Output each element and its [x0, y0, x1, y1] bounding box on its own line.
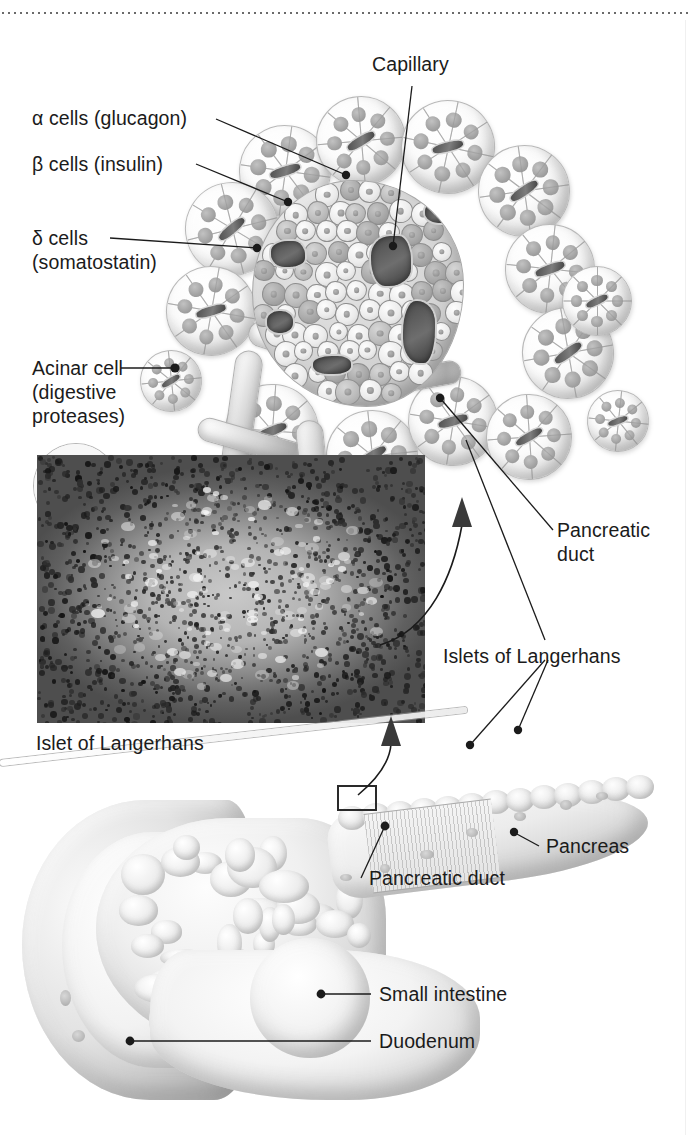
islet-cell	[389, 199, 413, 223]
islet-cell	[336, 261, 356, 281]
islet-capillary	[271, 241, 305, 267]
label-acinar-cell: Acinar cell (digestive proteases)	[32, 356, 125, 428]
islet-cell	[335, 379, 361, 405]
islet-of-langerhans-cluster	[252, 180, 464, 407]
islet-capillary	[425, 201, 455, 223]
label-pancreatic-duct-bottom: Pancreatic duct	[369, 866, 505, 890]
islet-cell	[316, 299, 336, 319]
islet-capillary	[371, 236, 411, 286]
label-alpha-cells: α cells (glucagon)	[32, 106, 187, 130]
acinus	[137, 347, 205, 415]
islet-cell	[423, 220, 444, 241]
acinus	[483, 391, 575, 483]
label-pancreatic-duct-top: Pancreatic duct	[557, 518, 650, 566]
micrograph-caption: Islet of Langerhans	[36, 731, 204, 755]
pancreas-lobule	[259, 870, 309, 902]
organ-islet-dot	[466, 828, 478, 837]
pancreas-lobule	[119, 895, 157, 925]
islet-cell	[359, 379, 382, 402]
pancreas-tail-scallop	[626, 775, 654, 799]
label-delta-cells: δ cells (somatostatin)	[32, 226, 157, 274]
islet-capillary	[313, 356, 351, 374]
islet-cell	[295, 220, 316, 241]
label-islets-of-langerhans: Islets of Langerhans	[443, 644, 621, 668]
islet-cell	[381, 383, 401, 403]
pancreas-organ	[0, 760, 691, 1135]
islet-cell	[262, 282, 286, 306]
islet-cell	[329, 322, 349, 342]
label-duodenum: Duodenum	[379, 1029, 475, 1053]
duodenal-fold-b	[72, 1030, 85, 1042]
acinus	[159, 259, 263, 363]
pancreas-lobule	[131, 934, 164, 958]
islet-cell	[294, 341, 313, 360]
label-beta-cells: β cells (insulin)	[32, 152, 163, 176]
acinus	[562, 266, 632, 336]
islet-cell	[358, 340, 377, 359]
islet-micrograph-image	[37, 455, 425, 723]
acinus	[584, 387, 652, 455]
islet-cell	[253, 260, 275, 282]
islet-cell	[445, 301, 464, 325]
organ-islet-dot	[514, 812, 526, 821]
pancreas-lobule	[121, 854, 165, 896]
islet-cell	[346, 280, 367, 301]
organ-islet-dot	[596, 792, 608, 800]
figure-canvas: Capillary α cells (glucagon) β cells (in…	[0, 0, 691, 1135]
organ-zoom-box	[337, 785, 377, 811]
label-small-intestine: Small intestine	[379, 982, 507, 1006]
pancreas-lobule	[347, 923, 371, 948]
islet-cell	[408, 361, 432, 385]
duodenal-fold-a	[60, 990, 71, 1006]
islet-cell	[316, 220, 339, 243]
islet-cell	[283, 363, 308, 388]
islet-cell	[432, 242, 452, 262]
pancreas-lobule	[173, 835, 199, 860]
small-intestine-bulb	[250, 938, 370, 1058]
islet-capillary	[403, 301, 435, 363]
label-pancreas: Pancreas	[546, 834, 629, 858]
islet-capillary	[267, 311, 293, 333]
islet-cell	[358, 180, 381, 203]
islet-cell	[389, 361, 410, 382]
label-capillary: Capillary	[372, 52, 449, 76]
